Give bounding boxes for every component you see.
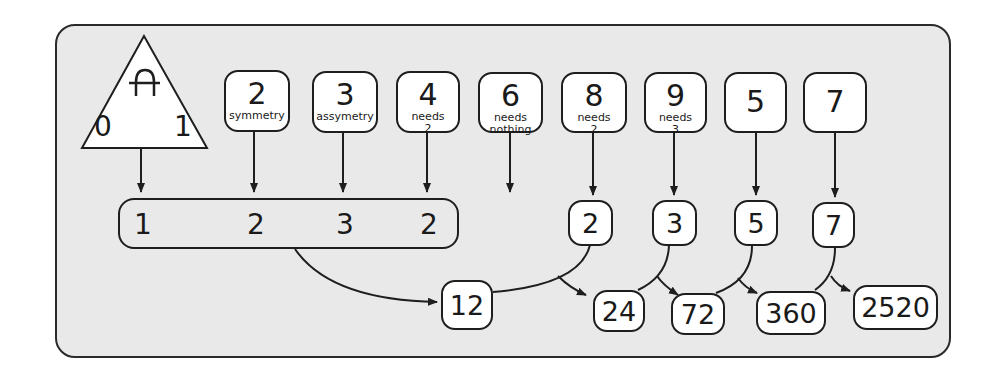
group-value: 3: [336, 208, 354, 241]
diagram-stage: 0 1 2 symmetry 3 assymetry 4 needs 2 6 n…: [0, 0, 994, 390]
product-box: 2520: [853, 285, 938, 330]
top-box-note-2: 2: [425, 123, 432, 135]
product-box: 360: [756, 291, 826, 335]
top-box-number: 6: [501, 80, 520, 112]
top-box-9: 9 needs 3: [644, 72, 707, 133]
factor-box: 2: [568, 200, 613, 246]
factor-box: 7: [812, 202, 855, 248]
top-box-5: 5: [724, 72, 787, 133]
top-box-7: 7: [803, 72, 867, 133]
top-box-2: 2 symmetry: [224, 70, 290, 132]
triangle-left-value: 0: [94, 110, 112, 143]
product-box: 24: [593, 290, 645, 332]
connector-layer: [0, 0, 994, 390]
triangle-right-value: 1: [174, 110, 192, 143]
top-box-number: 2: [247, 78, 266, 110]
top-box-8: 8 needs 2: [561, 72, 627, 133]
top-box-note-2: 3: [672, 124, 679, 136]
factor-box: 3: [652, 200, 697, 246]
top-box-number: 8: [584, 80, 603, 112]
top-box-3: 3 assymetry: [312, 71, 378, 133]
top-box-number: 3: [335, 79, 354, 111]
top-box-note-2: nothing: [490, 124, 532, 136]
top-box-note-2: 2: [591, 124, 598, 136]
top-box-4: 4 needs 2: [396, 71, 460, 133]
top-box-number: 7: [825, 86, 844, 118]
top-box-note: assymetry: [316, 111, 374, 123]
top-box-number: 5: [746, 86, 765, 118]
group-box: 1 2 3 2: [118, 198, 459, 249]
factor-box: 5: [734, 200, 778, 246]
group-value: 2: [420, 208, 438, 241]
top-box-number: 9: [666, 80, 685, 112]
top-box-number: 4: [418, 79, 437, 111]
group-value: 1: [134, 208, 152, 241]
product-box: 12: [441, 280, 493, 330]
top-box-6: 6 needs nothing: [478, 72, 543, 133]
down-arrows: [141, 131, 835, 197]
top-box-note: symmetry: [229, 110, 285, 122]
product-box: 72: [671, 293, 725, 335]
group-value: 2: [247, 208, 265, 241]
